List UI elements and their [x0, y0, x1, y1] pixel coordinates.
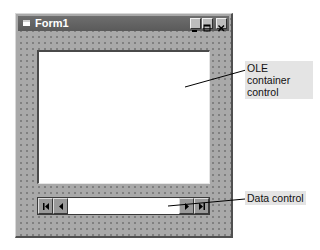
callout-leaders	[0, 0, 320, 250]
data-leader-line	[168, 199, 245, 206]
ole-leader-line	[185, 70, 246, 87]
data-callout-label: Data control	[245, 191, 306, 205]
ole-callout-label: OLE container control	[245, 61, 313, 99]
